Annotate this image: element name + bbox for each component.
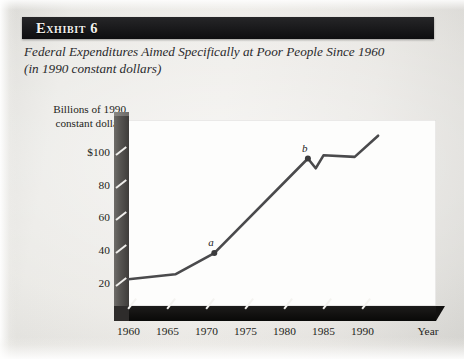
y-tick-mark	[115, 179, 126, 189]
x-axis-bar	[114, 306, 436, 321]
y-tick-mark	[115, 244, 126, 254]
y-tick-label: $100	[50, 146, 110, 158]
y-tick-mark	[115, 146, 126, 156]
y-tick-mark	[115, 277, 126, 287]
y-tick-label: 60	[50, 211, 110, 223]
x-tick-label: 1990	[340, 325, 386, 337]
y-tick-mark	[115, 211, 126, 221]
y-tick-label: 40	[50, 244, 110, 256]
annotation-label-b: b	[302, 142, 308, 154]
exhibit-figure: Exhibit 6 Federal Expenditures Aimed Spe…	[0, 0, 464, 359]
plot-area	[128, 120, 436, 306]
x-axis-title: Year	[404, 325, 452, 337]
x-axis-end-cap	[436, 306, 445, 321]
y-tick-labels: 20406080$100	[44, 0, 110, 359]
y-tick-label: 20	[50, 277, 110, 289]
annotation-label-a: a	[208, 236, 214, 248]
y-tick-label: 80	[50, 179, 110, 191]
y-tick-marks	[116, 0, 136, 359]
